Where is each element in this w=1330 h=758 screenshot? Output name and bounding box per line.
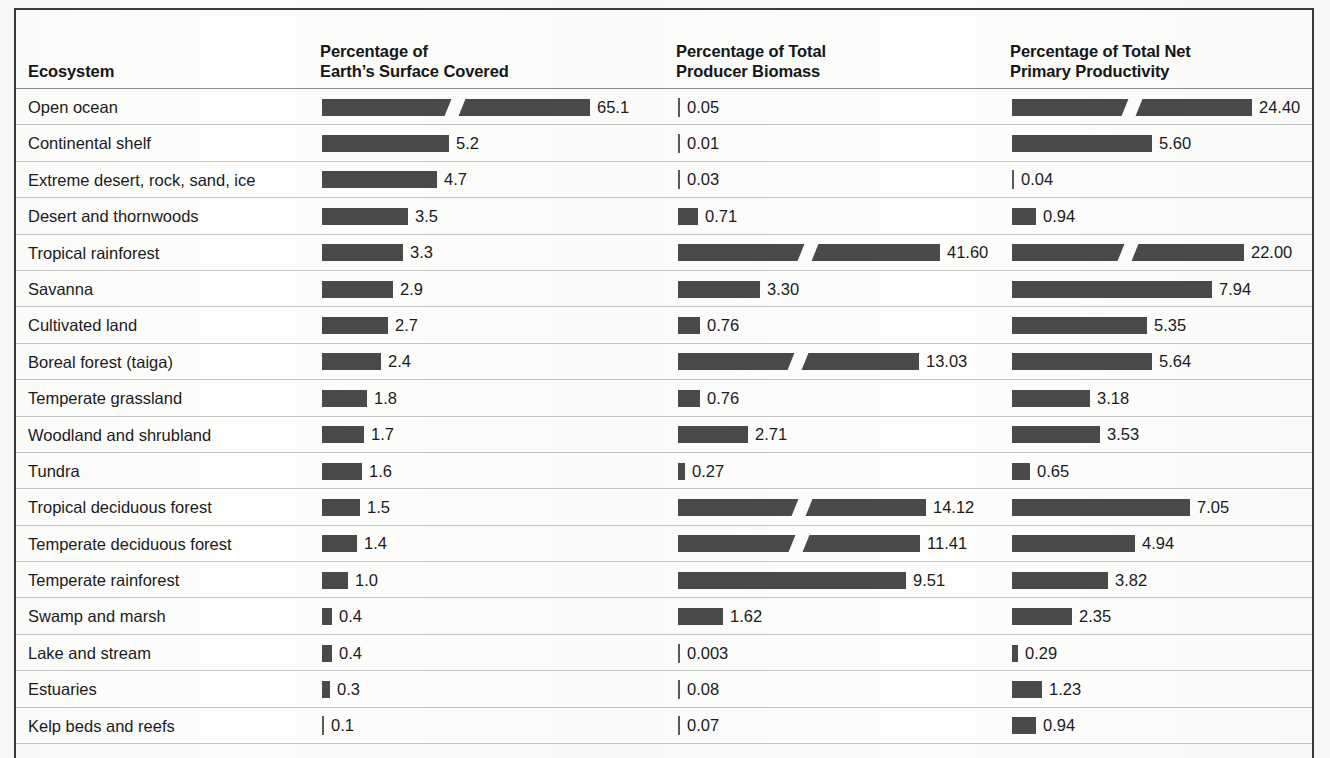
bar-cell-npp: 7.05	[1012, 489, 1229, 525]
bar-cell-biomass: 0.05	[678, 89, 719, 125]
data-table: Ecosystem Percentage of Earth’s Surface …	[14, 8, 1314, 743]
table-row: Cultivated land2.70.765.35	[16, 307, 1312, 343]
bar-cell-biomass: 0.71	[678, 198, 737, 234]
bar-value-biomass: 0.76	[707, 389, 739, 408]
bar-value-surface: 1.4	[364, 534, 387, 553]
ecosystem-name: Tropical rainforest	[28, 235, 159, 271]
bar-cell-surface: 3.5	[322, 198, 438, 234]
bar-cell-biomass: 1.62	[678, 598, 762, 634]
bar-biomass	[678, 644, 680, 663]
bar-biomass	[678, 572, 906, 589]
bar-biomass	[678, 426, 748, 443]
bar-cell-npp: 5.60	[1012, 125, 1191, 161]
ecosystem-name: Boreal forest (taiga)	[28, 344, 173, 380]
bar-cell-surface: 65.1	[322, 89, 629, 125]
axis-break-slash	[444, 98, 466, 117]
bar-cell-surface: 2.7	[322, 307, 418, 343]
bar-value-npp: 3.82	[1115, 571, 1147, 590]
bar-cell-npp: 3.82	[1012, 562, 1147, 598]
bar-cell-surface: 3.3	[322, 235, 433, 271]
bar-value-biomass: 0.07	[687, 716, 719, 735]
ecosystem-name: Cultivated land	[28, 307, 137, 343]
bar-cell-surface: 1.0	[322, 562, 378, 598]
bar-cell-surface: 4.7	[322, 162, 467, 198]
bar-surface	[322, 681, 330, 698]
bar-cell-npp: 22.00	[1012, 235, 1292, 271]
bar-cell-npp: 0.94	[1012, 198, 1075, 234]
ecosystem-name: Extreme desert, rock, sand, ice	[28, 162, 255, 198]
bar-surface	[322, 281, 393, 298]
bar-surface	[322, 535, 357, 552]
bar-npp	[1012, 244, 1244, 261]
table-row: Temperate deciduous forest1.411.414.94	[16, 526, 1312, 562]
bar-biomass	[678, 170, 680, 189]
bar-value-surface: 0.4	[339, 607, 362, 626]
bar-npp	[1012, 463, 1030, 480]
bar-cell-npp: 1.23	[1012, 671, 1081, 707]
table-row: Temperate grassland1.80.763.18	[16, 380, 1312, 416]
bar-biomass	[678, 353, 919, 370]
table-row: Desert and thornwoods3.50.710.94	[16, 198, 1312, 234]
column-header-surface-line2: Earth’s Surface Covered	[320, 61, 660, 81]
bar-biomass	[678, 317, 700, 334]
bar-cell-npp: 3.53	[1012, 417, 1139, 453]
bar-npp	[1012, 499, 1190, 516]
bar-biomass	[678, 244, 940, 261]
bar-cell-surface: 0.3	[322, 671, 360, 707]
bar-cell-npp: 2.35	[1012, 598, 1111, 634]
bar-value-npp: 3.53	[1107, 425, 1139, 444]
bar-cell-biomass: 11.41	[678, 526, 967, 562]
bar-cell-npp: 0.04	[1012, 162, 1053, 198]
bar-surface	[322, 608, 332, 625]
ecosystem-name: Lake and stream	[28, 635, 151, 671]
bar-value-npp: 24.40	[1259, 98, 1300, 117]
ecosystem-name: Swamp and marsh	[28, 598, 166, 634]
bar-cell-npp: 7.94	[1012, 271, 1251, 307]
table-row: Lake and stream0.40.0030.29	[16, 635, 1312, 671]
bar-npp	[1012, 426, 1100, 443]
bar-npp	[1012, 99, 1252, 116]
bar-value-biomass: 41.60	[947, 243, 988, 262]
bar-surface	[322, 244, 403, 261]
bar-value-surface: 1.8	[374, 389, 397, 408]
bar-biomass	[678, 499, 926, 516]
axis-break-slash	[787, 352, 809, 371]
bar-surface	[322, 208, 408, 225]
bar-cell-npp: 4.94	[1012, 526, 1174, 562]
bar-value-biomass: 14.12	[933, 498, 974, 517]
bar-cell-npp: 0.94	[1012, 708, 1075, 744]
bar-value-surface: 4.7	[444, 170, 467, 189]
bar-surface	[322, 572, 348, 589]
bar-value-biomass: 0.05	[687, 98, 719, 117]
table-row: Continental shelf5.20.015.60	[16, 125, 1312, 161]
bar-cell-npp: 0.65	[1012, 453, 1069, 489]
bar-value-biomass: 1.62	[730, 607, 762, 626]
bar-value-npp: 0.65	[1037, 462, 1069, 481]
axis-break-slash	[797, 243, 819, 262]
bar-value-npp: 0.94	[1043, 207, 1075, 226]
bar-cell-biomass: 0.03	[678, 162, 719, 198]
bar-surface	[322, 463, 362, 480]
bar-surface	[322, 499, 360, 516]
bar-cell-biomass: 14.12	[678, 489, 974, 525]
bar-cell-surface: 1.8	[322, 380, 397, 416]
ecosystem-name: Temperate deciduous forest	[28, 526, 232, 562]
bar-npp	[1012, 135, 1152, 152]
bar-value-npp: 0.04	[1021, 170, 1053, 189]
bar-surface	[322, 645, 332, 662]
column-header-ecosystem-line1: Ecosystem	[28, 61, 308, 81]
bar-surface	[322, 426, 364, 443]
bar-cell-biomass: 0.76	[678, 307, 739, 343]
table-row: Kelp beds and reefs0.10.070.94	[16, 708, 1312, 744]
column-header-biomass-line1: Percentage of Total	[676, 41, 1006, 61]
bar-value-npp: 5.35	[1154, 316, 1186, 335]
bar-npp	[1012, 717, 1036, 734]
bar-biomass	[678, 608, 723, 625]
bar-npp	[1012, 681, 1042, 698]
bar-value-biomass: 9.51	[913, 571, 945, 590]
table-row: Extreme desert, rock, sand, ice4.70.030.…	[16, 162, 1312, 198]
bar-cell-biomass: 0.76	[678, 380, 739, 416]
bar-value-npp: 22.00	[1251, 243, 1292, 262]
bar-cell-biomass: 0.27	[678, 453, 724, 489]
bar-cell-biomass: 9.51	[678, 562, 945, 598]
